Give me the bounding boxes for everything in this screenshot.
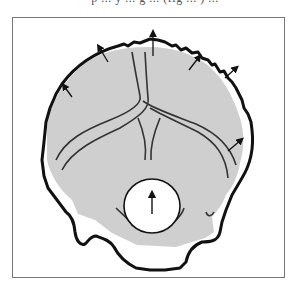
bone-diagram (0, 0, 298, 289)
foramen (124, 179, 180, 233)
